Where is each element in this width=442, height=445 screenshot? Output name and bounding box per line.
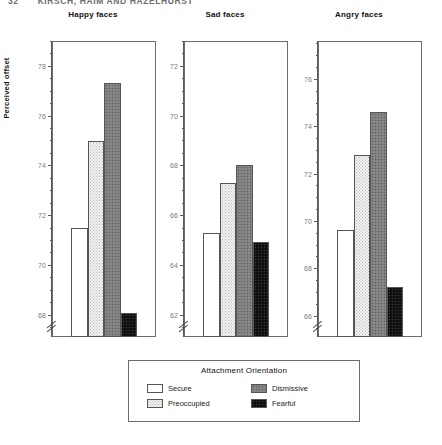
y-axis-tick-label: 76 <box>304 75 312 82</box>
bar-group <box>52 41 156 337</box>
legend-swatch-icon <box>147 399 163 408</box>
bar-secure <box>203 233 220 337</box>
y-axis-tick-label: 68 <box>38 311 46 318</box>
legend-swatch-icon <box>147 384 163 393</box>
bar-preoccupied <box>220 183 237 337</box>
bar-dismissive <box>104 83 121 337</box>
y-axis-label: Perceived offset <box>2 28 11 148</box>
y-axis-tick-label: 70 <box>170 112 178 119</box>
legend-entry-label: Preoccupied <box>168 399 210 408</box>
panel-happy-faces: Happy faces687072747678 <box>30 10 156 342</box>
y-axis-tick-label: 74 <box>304 123 312 130</box>
legend-entries: SecureDismissivePreoccupiedFearful <box>129 381 359 411</box>
y-axis-tick-label: 70 <box>304 217 312 224</box>
y-axis-tick-label: 78 <box>38 62 46 69</box>
y-axis-tick-label: 70 <box>38 261 46 268</box>
panel-angry-faces: Angry faces666870727476 <box>296 10 422 342</box>
bar-group <box>184 41 288 337</box>
panel-title: Sad faces <box>162 10 288 19</box>
y-axis-tick-label: 76 <box>38 112 46 119</box>
legend-entry-secure: Secure <box>147 381 251 396</box>
y-axis-tick-label: 72 <box>38 212 46 219</box>
legend-swatch-icon <box>251 399 267 408</box>
y-axis-tick-label: 68 <box>304 265 312 272</box>
bar-fearful <box>121 313 138 337</box>
panel-title: Happy faces <box>30 10 156 19</box>
legend-entry-label: Secure <box>168 384 192 393</box>
figure-bar-chart-perceived-offset: Perceived offset Happy faces687072747678… <box>0 0 442 445</box>
legend-entry-label: Fearful <box>272 399 295 408</box>
y-axis-tick-label: 68 <box>170 162 178 169</box>
y-axis-tick-label: 66 <box>170 212 178 219</box>
panel-title: Angry faces <box>296 10 422 19</box>
legend-entry-dismissive: Dismissive <box>251 381 359 396</box>
legend-swatch-icon <box>251 384 267 393</box>
chart-legend: Attachment Orientation SecureDismissiveP… <box>128 360 360 422</box>
bar-fearful <box>253 242 270 337</box>
legend-title: Attachment Orientation <box>129 366 359 375</box>
y-axis-tick-label: 74 <box>38 162 46 169</box>
y-axis-tick-label: 72 <box>304 170 312 177</box>
y-axis-tick-label: 66 <box>304 312 312 319</box>
legend-entry-fearful: Fearful <box>251 396 359 411</box>
bar-preoccupied <box>88 141 105 338</box>
legend-entry-preoccupied: Preoccupied <box>147 396 251 411</box>
y-axis-tick-label: 72 <box>170 62 178 69</box>
y-axis-tick-label: 62 <box>170 311 178 318</box>
bar-dismissive <box>370 112 387 337</box>
legend-entry-label: Dismissive <box>272 384 308 393</box>
bar-fearful <box>387 287 404 337</box>
bar-preoccupied <box>354 155 371 337</box>
bar-group <box>318 41 422 337</box>
bar-secure <box>337 230 354 337</box>
y-axis-tick-label: 64 <box>170 261 178 268</box>
panel-sad-faces: Sad faces626466687072 <box>162 10 288 342</box>
bar-dismissive <box>236 165 253 337</box>
bar-secure <box>71 228 88 337</box>
